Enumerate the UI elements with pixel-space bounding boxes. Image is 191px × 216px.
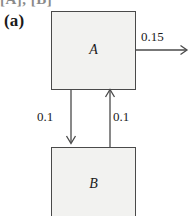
flow-label-b-to-a: 0.1 bbox=[113, 109, 129, 125]
flow-label-outflow: 0.15 bbox=[141, 29, 164, 45]
flow-label-a-to-b: 0.1 bbox=[37, 109, 53, 125]
compartment-diagram: [A], [B] (a) A B 0.15 0.1 0.1 bbox=[0, 0, 191, 216]
